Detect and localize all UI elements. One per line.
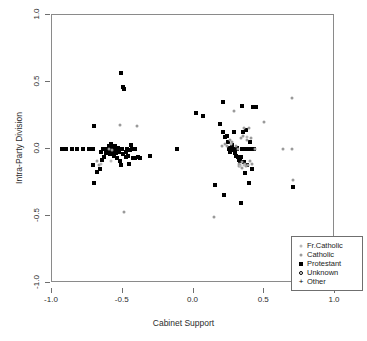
data-point-protestant [98,167,102,171]
x-axis-tick [263,288,264,293]
data-point-protestant [127,162,131,166]
x-axis-tick [193,288,194,293]
x-axis-tick [51,288,52,293]
data-point-protestant [91,147,95,151]
data-point-protestant [239,155,243,159]
data-point-catholic [118,123,121,126]
data-point-protestant [201,114,205,118]
data-point-protestant [148,154,152,158]
data-point-catholic [220,145,223,148]
data-point-catholic [250,162,253,165]
legend-label: Protestant [307,259,341,268]
data-point-protestant [126,154,130,158]
data-point-protestant [243,171,247,175]
y-axis-tick-label: -1.0 [32,275,41,289]
data-point-catholic [232,110,235,113]
legend-marker-dot-icon [295,250,307,259]
data-point-protestant [240,104,244,108]
data-point-protestant [133,147,137,151]
data-point-protestant [64,147,68,151]
data-point-protestant [218,122,222,126]
x-axis-tick-label: 1.0 [328,295,339,304]
data-point-catholic [291,178,294,181]
data-point-catholic [290,97,293,100]
legend-label: Other [307,277,326,286]
data-point-catholic [245,138,248,141]
data-point-fr-catholic [230,142,233,145]
data-point-protestant [75,147,79,151]
legend-label: Fr.Catholic [307,241,343,250]
y-axis-tick [45,282,50,283]
data-point-fr-catholic [242,164,245,167]
data-point-protestant [239,201,243,205]
data-point-catholic [242,134,245,137]
legend-item-unknown: Unknown [295,268,359,277]
data-point-catholic [213,216,216,219]
data-point-catholic [263,121,266,124]
x-axis-tick-label: -0.5 [115,295,129,304]
legend-item-protestant: Protestant [295,259,359,268]
legend-label: Catholic [307,250,334,259]
data-point-catholic [246,164,249,167]
data-point-catholic [123,210,126,213]
data-point-protestant [254,105,258,109]
data-point-protestant [138,156,142,160]
legend-item-other: +Other [295,277,359,286]
scatter-plot-figure: -1.0-0.50.00.51.0-1.0-0.50.00.51.0 Cabin… [0,0,367,341]
data-point-catholic [135,125,138,128]
data-point-catholic [239,137,242,140]
data-point-protestant [291,185,295,189]
data-point-protestant [232,130,236,134]
data-point-protestant [222,193,226,197]
data-point-protestant [91,163,95,167]
legend-label: Unknown [307,268,338,277]
data-point-fr-catholic [109,160,112,163]
legend-marker-plus-icon: + [295,277,307,286]
data-point-protestant [248,140,252,144]
legend-item-catholic: Catholic [295,250,359,259]
y-axis-tick [45,81,50,82]
legend-item-fr-catholic: Fr.Catholic [295,241,359,250]
y-axis-tick-label: 0.5 [32,75,41,86]
data-point-protestant [92,124,96,128]
x-axis-tick-label: 0.5 [258,295,269,304]
y-axis-tick-label: 0.0 [32,142,41,153]
y-axis-tick-label: 1.0 [32,8,41,19]
data-point-protestant [122,87,126,91]
x-axis-tick-label: -1.0 [44,295,58,304]
data-point-catholic [226,145,229,148]
data-point-protestant [250,167,254,171]
data-point-catholic [237,148,240,151]
data-point-fr-catholic [99,162,102,165]
y-axis-tick-label: -0.5 [32,208,41,222]
data-point-protestant [119,71,123,75]
data-point-protestant [225,134,229,138]
data-point-catholic [243,126,246,129]
data-point-protestant [213,183,217,187]
y-axis-tick [45,148,50,149]
data-point-catholic [111,149,114,152]
data-point-catholic [247,126,250,129]
data-point-fr-catholic [239,165,242,168]
y-axis-tick [45,215,50,216]
y-axis-tick [45,14,50,15]
data-point-protestant [81,147,85,151]
data-point-protestant [221,100,225,104]
legend-marker-dot-icon [295,241,307,250]
data-point-fr-catholic [246,135,249,138]
data-point-catholic [254,148,257,151]
x-axis-tick-label: 0.0 [187,295,198,304]
x-axis-label: Cabinet Support [0,318,367,328]
data-point-catholic [96,160,99,163]
data-point-protestant [70,147,74,151]
data-point-protestant [175,147,179,151]
y-axis-label: Intra-Party Division [14,112,24,184]
data-point-catholic [281,148,284,151]
data-point-protestant [194,111,198,115]
legend: Fr.CatholicCatholicProtestantUnknown+Oth… [291,236,363,291]
data-point-protestant [247,181,251,185]
data-point-protestant [119,163,123,167]
legend-marker-square-icon [295,259,307,268]
data-point-protestant [102,155,106,159]
data-point-catholic [249,137,252,140]
